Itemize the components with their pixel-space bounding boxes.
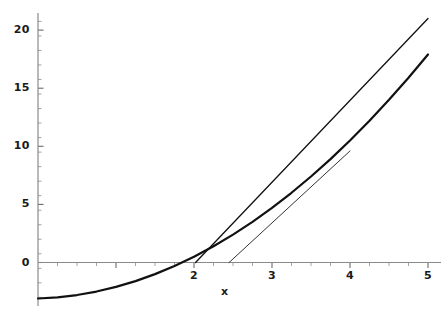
y-tick-label-0: 0 <box>2 256 30 269</box>
x-tick-label-5: 5 <box>413 269 443 282</box>
y-tick-label-5: 5 <box>2 197 30 210</box>
x-tick-label-4: 4 <box>335 269 365 282</box>
x-tick-label-3: 3 <box>257 269 287 282</box>
plot-canvas <box>0 0 448 315</box>
x-tick-label-2: 2 <box>179 269 209 282</box>
y-tick-label-10: 10 <box>2 139 30 152</box>
plot-background <box>0 0 448 315</box>
y-tick-label-20: 20 <box>2 23 30 36</box>
chart-figure: 20 15 10 5 0 2 3 4 5 x <box>0 0 448 315</box>
x-axis-title: x <box>221 285 229 298</box>
y-tick-label-15: 15 <box>2 81 30 94</box>
